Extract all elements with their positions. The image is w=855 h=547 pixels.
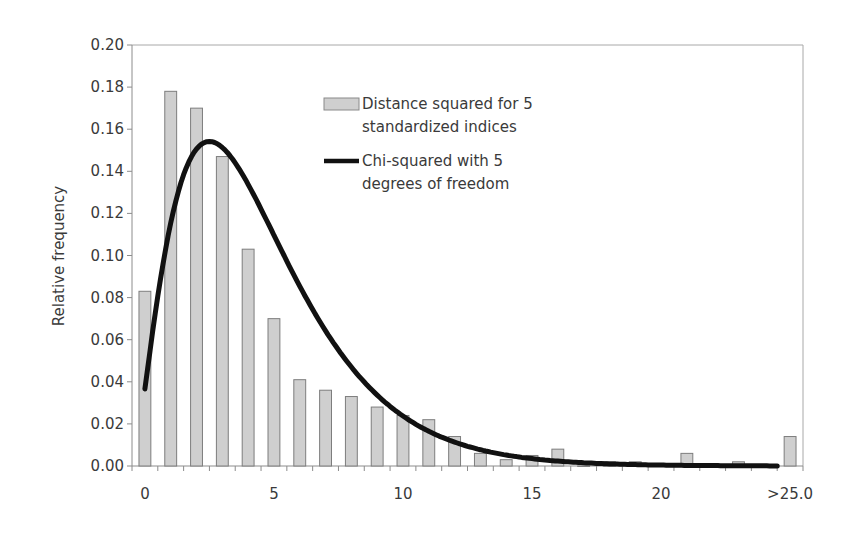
- y-tick-label: 0.12: [91, 204, 124, 222]
- bar: [268, 319, 280, 466]
- y-axis-ticks: 0.000.020.040.060.080.100.120.140.160.18…: [91, 36, 132, 475]
- y-tick-label: 0.20: [91, 36, 124, 54]
- y-tick-label: 0.06: [91, 331, 124, 349]
- x-tick-label: 0: [140, 485, 150, 503]
- bar: [578, 466, 590, 467]
- y-tick-label: 0.14: [91, 162, 124, 180]
- legend-item-1-line2: standardized indices: [362, 118, 517, 136]
- x-tick-label: 5: [269, 485, 279, 503]
- x-tick-label: 20: [652, 485, 671, 503]
- legend-item-2-line2: degrees of freedom: [362, 175, 509, 193]
- bar: [345, 397, 357, 466]
- chart: 0.000.020.040.060.080.100.120.140.160.18…: [0, 0, 855, 547]
- y-tick-label: 0.00: [91, 457, 124, 475]
- x-axis-ticks: 05101520>25.0: [132, 466, 813, 503]
- bar: [294, 380, 306, 466]
- y-tick-label: 0.16: [91, 120, 124, 138]
- bar: [397, 415, 409, 466]
- bar: [165, 91, 177, 466]
- x-tick-label: >25.0: [767, 485, 813, 503]
- bar: [191, 108, 203, 466]
- legend-bar-swatch: [324, 98, 359, 110]
- bar: [784, 437, 796, 466]
- bar: [474, 453, 486, 466]
- y-tick-label: 0.18: [91, 78, 124, 96]
- bar: [500, 460, 512, 466]
- y-tick-label: 0.02: [91, 415, 124, 433]
- bar: [371, 407, 383, 466]
- bar: [216, 157, 228, 466]
- y-tick-label: 0.04: [91, 373, 124, 391]
- x-tick-label: 10: [393, 485, 412, 503]
- y-tick-label: 0.10: [91, 247, 124, 265]
- bar: [320, 390, 332, 466]
- legend-item-1-line1: Distance squared for 5: [362, 95, 533, 113]
- y-tick-label: 0.08: [91, 289, 124, 307]
- legend-item-2-line1: Chi-squared with 5: [362, 152, 503, 170]
- y-axis-title: Relative frequency: [50, 186, 68, 327]
- legend: Distance squared for 5 standardized indi…: [324, 95, 533, 193]
- bar: [242, 249, 254, 466]
- bar-series: [139, 91, 796, 466]
- x-tick-label: 15: [522, 485, 541, 503]
